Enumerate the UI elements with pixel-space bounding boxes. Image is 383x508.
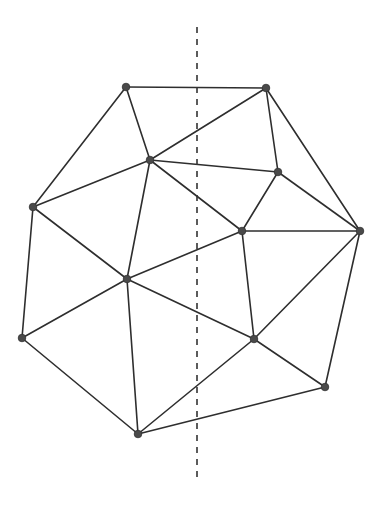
edge-G-J [254, 231, 360, 339]
edge-B-D [266, 88, 278, 172]
vertex-L [134, 430, 142, 438]
edge-group [22, 87, 360, 434]
edge-E-I [22, 207, 33, 338]
edge-D-G [278, 172, 360, 231]
vertex-C [146, 156, 154, 164]
edge-H-J [127, 279, 254, 339]
edge-A-B [126, 87, 266, 88]
edge-F-J [242, 231, 254, 339]
edge-H-I [22, 279, 127, 338]
edge-B-C [150, 88, 266, 160]
vertex-E [29, 203, 37, 211]
edge-I-L [22, 338, 138, 434]
vertex-D [274, 168, 282, 176]
vertex-J [250, 335, 258, 343]
vertex-F [238, 227, 246, 235]
vertex-K [321, 383, 329, 391]
edge-G-K [325, 231, 360, 387]
vertex-group [18, 83, 364, 438]
edge-C-F [150, 160, 242, 231]
triangulation-diagram [0, 0, 383, 508]
vertex-A [122, 83, 130, 91]
vertex-I [18, 334, 26, 342]
vertex-H [123, 275, 131, 283]
edge-H-L [127, 279, 138, 434]
edge-F-H [127, 231, 242, 279]
edge-J-K [254, 339, 325, 387]
edge-A-C [126, 87, 150, 160]
edge-E-H [33, 207, 127, 279]
vertex-G [356, 227, 364, 235]
edge-C-H [127, 160, 150, 279]
edge-B-G [266, 88, 360, 231]
edge-D-F [242, 172, 278, 231]
edge-C-D [150, 160, 278, 172]
vertex-B [262, 84, 270, 92]
